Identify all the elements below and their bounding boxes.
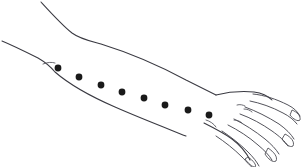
forearm-point-marker: [98, 82, 105, 89]
arm-diagram-figure: [0, 0, 305, 167]
arm-illustration: [0, 0, 305, 167]
forearm-point-marker: [141, 95, 148, 102]
forearm-point-marker: [206, 112, 213, 119]
forearm-point-marker: [119, 89, 126, 96]
figure-background: [0, 0, 305, 167]
forearm-point-marker: [76, 74, 83, 81]
forearm-point-marker: [162, 102, 169, 109]
forearm-point-marker: [55, 65, 62, 72]
forearm-point-marker: [185, 107, 192, 114]
